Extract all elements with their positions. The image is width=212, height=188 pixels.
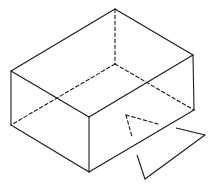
- indicator-dashed-edge: [126, 115, 158, 124]
- box-edge: [11, 71, 89, 117]
- indicator-solid-outline: [137, 128, 205, 179]
- box-visible-edges: [11, 9, 194, 172]
- indicator-dashed-edge: [126, 115, 132, 137]
- box-hidden-edge: [11, 64, 115, 125]
- box-edge: [11, 125, 89, 172]
- box-edge: [11, 9, 115, 71]
- diagram-canvas: [0, 0, 212, 188]
- box-hidden-edge: [115, 64, 194, 110]
- box-edge: [193, 55, 194, 110]
- view-direction-indicator: [126, 115, 205, 179]
- box-edge: [115, 9, 193, 55]
- box-hidden-edges: [11, 9, 194, 125]
- box-edge: [89, 55, 193, 117]
- isometric-box-diagram: [0, 0, 212, 188]
- box-edge: [89, 110, 194, 172]
